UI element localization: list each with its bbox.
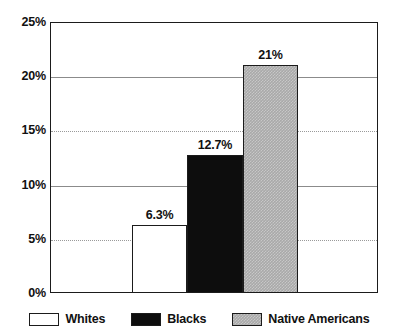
y-axis-tick-label-5: 5% — [0, 232, 46, 246]
legend-swatch-whites-icon — [29, 313, 59, 326]
legend-label-native-americans: Native Americans — [268, 312, 369, 326]
bar-blacks[interactable] — [187, 155, 243, 293]
y-axis-tick-label-20: 20% — [0, 69, 46, 83]
y-axis-tick-label-15: 15% — [0, 123, 46, 137]
bar-label-whites: 6.3% — [146, 208, 174, 222]
bar-native-americans[interactable] — [243, 65, 298, 293]
y-axis-tick-label-10: 10% — [0, 178, 46, 192]
y-axis-tick-label-25: 25% — [0, 15, 46, 29]
legend-item-whites[interactable]: Whites — [29, 312, 105, 326]
bar-label-blacks: 12.7% — [198, 138, 232, 152]
legend-swatch-blacks-icon — [131, 313, 161, 326]
bar-label-native-americans: 21% — [258, 48, 282, 62]
legend-item-blacks[interactable]: Blacks — [131, 312, 206, 326]
bar-whites[interactable] — [132, 225, 187, 293]
bar-chart: 25% 20% 15% 10% 5% 0% 6.3% 12.7% 21% Whi… — [0, 0, 399, 336]
legend-item-native-americans[interactable]: Native Americans — [232, 312, 369, 326]
bars-layer: 6.3% 12.7% 21% — [50, 22, 378, 293]
y-axis-tick-label-0: 0% — [0, 286, 46, 300]
legend-label-whites: Whites — [65, 312, 105, 326]
chart-legend: Whites Blacks Native Americans — [0, 308, 399, 330]
legend-label-blacks: Blacks — [167, 312, 206, 326]
legend-swatch-native-americans-icon — [232, 313, 262, 326]
